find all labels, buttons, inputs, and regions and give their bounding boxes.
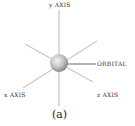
z-axis-label: z AXIS — [97, 91, 118, 98]
figure-caption: (a) — [52, 108, 67, 121]
x-axis-label: x AXIS — [4, 91, 26, 98]
y-axis-label: y AXIS — [49, 1, 71, 8]
orbital-label: ORBITAL — [97, 60, 127, 67]
orbital-sphere — [50, 54, 68, 72]
